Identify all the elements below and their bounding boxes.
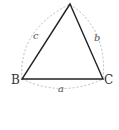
vertex-b-label: B xyxy=(11,73,20,87)
side-a-label: a xyxy=(58,83,64,94)
side-b-label: b xyxy=(94,32,100,43)
triangle xyxy=(22,4,103,79)
triangle-diagram: B C c b a xyxy=(0,0,119,130)
side-c-label: c xyxy=(33,30,39,41)
vertex-c-label: C xyxy=(104,73,113,87)
